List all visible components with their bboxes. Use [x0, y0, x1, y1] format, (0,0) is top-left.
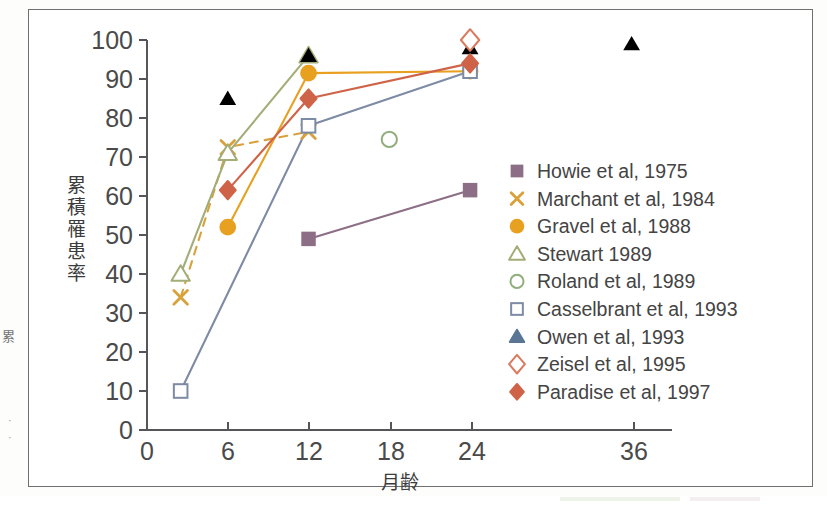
y-tick-label: 50 — [105, 221, 133, 249]
data-point — [302, 233, 314, 245]
legend-marker-icon — [509, 246, 525, 259]
page-tint-right — [690, 497, 760, 501]
y-tick-label: 20 — [105, 338, 133, 366]
legend-label: Paradise et al, 1997 — [537, 381, 710, 403]
data-point — [301, 66, 316, 81]
y-tick-label: 0 — [119, 416, 133, 444]
figure-root: 累 ·· — [0, 0, 827, 508]
legend-item: Owen et al, 1993 — [510, 326, 685, 348]
series-line — [309, 190, 471, 239]
data-point — [219, 91, 236, 105]
y-tick-label: 90 — [105, 65, 133, 93]
data-point — [461, 29, 479, 51]
y-axis-title: 累積罹患率 — [64, 175, 86, 285]
legend-label: Zeisel et al, 1995 — [537, 353, 686, 375]
legend-label: Marchant et al, 1984 — [537, 188, 715, 210]
chart-canvas: 100 90 80 70 60 50 40 30 20 10 0 0 6 12 … — [0, 0, 827, 508]
data-point — [171, 265, 189, 281]
legend-item: Paradise et al, 1997 — [510, 381, 710, 403]
data-point — [623, 36, 640, 50]
legend-marker-icon — [511, 193, 523, 205]
legend-label: Casselbrant et al, 1993 — [537, 298, 738, 320]
y-tick-label: 10 — [105, 377, 133, 405]
legend-item: Stewart 1989 — [509, 243, 652, 265]
x-tick-label: 24 — [458, 437, 486, 465]
x-axis-title: 月齢 — [381, 471, 419, 493]
y-tick-label: 70 — [105, 143, 133, 171]
x-tick-label: 18 — [377, 437, 405, 465]
legend-item: Marchant et al, 1984 — [511, 188, 715, 210]
legend-marker-icon — [511, 220, 524, 233]
x-tick-marks — [147, 422, 634, 430]
legend-item: Casselbrant et al, 1993 — [511, 298, 737, 320]
legend-item: Roland et al, 1989 — [510, 270, 695, 292]
legend-marker-icon — [511, 303, 523, 315]
legend-marker-icon — [509, 355, 525, 374]
data-point — [300, 48, 317, 62]
data-point — [382, 132, 397, 147]
data-point — [174, 291, 188, 305]
y-tick-label: 40 — [105, 260, 133, 288]
x-tick-label: 0 — [140, 437, 154, 465]
data-point — [302, 119, 316, 133]
y-tick-labels: 100 90 80 70 60 50 40 30 20 10 0 — [91, 26, 133, 444]
data-point — [174, 384, 188, 398]
y-tick-label: 80 — [105, 104, 133, 132]
legend-marker-icon — [510, 330, 524, 342]
x-tick-label: 36 — [620, 437, 648, 465]
y-tick-label: 30 — [105, 299, 133, 327]
series-line — [181, 132, 309, 298]
y-tick-marks — [139, 40, 147, 430]
legend-marker-icon — [510, 275, 523, 288]
y-tick-label: 100 — [91, 26, 133, 54]
legend-marker-icon — [512, 166, 523, 177]
legend-label: Roland et al, 1989 — [537, 270, 695, 292]
legend-label: Howie et al, 1975 — [537, 160, 688, 182]
legend-label: Owen et al, 1993 — [537, 326, 684, 348]
x-tick-label: 12 — [295, 437, 323, 465]
y-tick-label: 60 — [105, 182, 133, 210]
data-point — [220, 220, 235, 235]
legend-item: Gravel et al, 1988 — [511, 215, 691, 237]
legend-item: Zeisel et al, 1995 — [509, 353, 686, 375]
chart-legend: Howie et al, 1975Marchant et al, 1984Gra… — [509, 160, 737, 403]
x-tick-label: 6 — [221, 437, 235, 465]
legend-label: Stewart 1989 — [537, 243, 652, 265]
legend-item: Howie et al, 1975 — [512, 160, 688, 182]
x-tick-labels: 0 6 12 18 24 36 — [140, 437, 648, 465]
data-point — [464, 184, 476, 196]
legend-marker-icon — [510, 384, 524, 400]
page-tint-left — [560, 497, 680, 501]
legend-label: Gravel et al, 1988 — [537, 215, 691, 237]
